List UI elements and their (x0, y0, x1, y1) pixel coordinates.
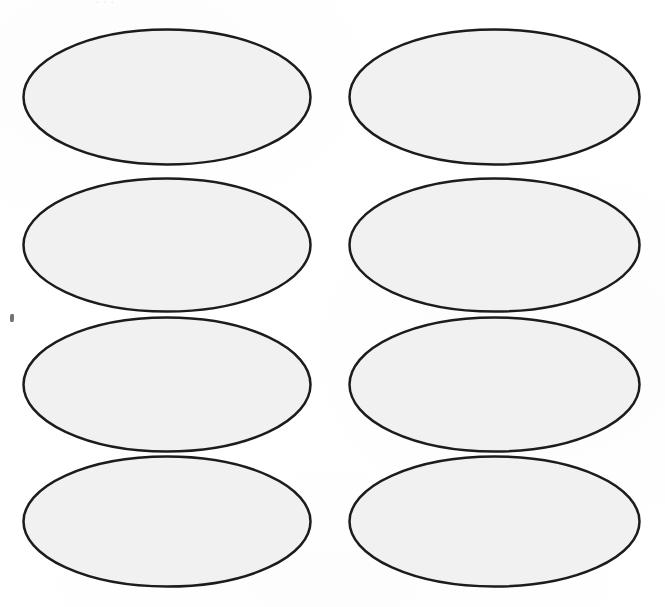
oval-outline-icon (348, 28, 641, 166)
oval-outline-icon (348, 455, 641, 588)
oval-outline-icon (22, 455, 312, 588)
oval-outline-icon (348, 316, 641, 453)
oval-outline-icon (348, 177, 641, 313)
scan-speck (10, 314, 14, 322)
oval-shape-r3c2[interactable] (348, 316, 641, 453)
oval-outline-icon (22, 316, 312, 453)
oval-shape-r2c2[interactable] (348, 177, 641, 313)
oval-outline-icon (22, 177, 312, 313)
scanned-page: · · · (0, 0, 665, 607)
ghost-text-top: · · · (95, 0, 355, 6)
oval-shape-r3c1[interactable] (22, 316, 312, 453)
oval-shape-r4c2[interactable] (348, 455, 641, 588)
oval-shape-r1c2[interactable] (348, 28, 641, 166)
oval-outline-icon (22, 28, 312, 166)
oval-shape-r1c1[interactable] (22, 28, 312, 166)
oval-shape-r2c1[interactable] (22, 177, 312, 313)
oval-shape-r4c1[interactable] (22, 455, 312, 588)
